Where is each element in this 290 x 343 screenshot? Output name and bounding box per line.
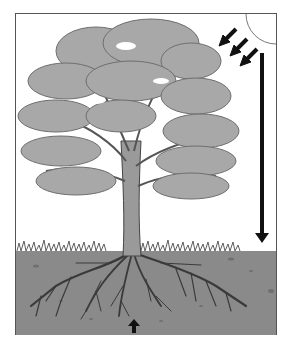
arrow-down-left-icon [230, 39, 247, 56]
sun-icon [246, 14, 277, 44]
arrow-down-left-icon [240, 49, 257, 66]
soil [16, 251, 277, 335]
tree-diagram-svg [16, 14, 277, 335]
water-down-arrow-icon [255, 53, 269, 243]
sunlight-arrows [219, 29, 257, 66]
arrow-down-left-icon [219, 29, 236, 46]
diagram-frame [15, 13, 277, 335]
